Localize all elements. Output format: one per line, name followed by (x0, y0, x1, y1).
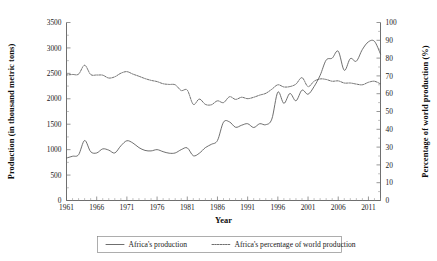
y-axis-tick-label: 1000 (47, 145, 62, 154)
y2-axis-title: Percentage of world production (%) (421, 45, 430, 178)
chart-figure: 0500100015002000250030003500010203040506… (0, 0, 437, 261)
x-axis-tick-label: 1971 (119, 203, 134, 212)
y2-axis-tick-label: 60 (386, 89, 394, 98)
y2-axis-tick-label: 40 (386, 125, 394, 134)
x-axis-tick-label: 2001 (301, 203, 316, 212)
y-axis-title: Production (in thousand metric tons) (7, 44, 16, 180)
x-axis-title: Year (215, 216, 232, 225)
legend-item-percentage: Africa's percentage of world production (235, 240, 356, 249)
y-axis-tick-label: 2500 (47, 69, 62, 78)
y2-axis-tick-label: 10 (386, 178, 394, 187)
y-axis-tick-label: 1500 (47, 120, 62, 129)
y2-axis-tick-label: 0 (386, 196, 390, 205)
y-axis-tick-label: 3000 (47, 44, 62, 53)
x-axis-tick-label: 1976 (150, 203, 165, 212)
x-axis-tick-label: 1986 (210, 203, 225, 212)
y2-axis-tick-label: 30 (386, 143, 394, 152)
y-axis-tick-label: 3500 (47, 18, 62, 27)
x-axis-tick-label: 2011 (361, 203, 376, 212)
x-axis-tick-label: 1981 (180, 203, 195, 212)
y2-axis-tick-label: 90 (386, 36, 394, 45)
y2-axis-tick-label: 80 (386, 54, 394, 63)
y2-axis-tick-label: 50 (386, 107, 394, 116)
y2-axis-tick-label: 20 (386, 161, 394, 170)
x-axis-tick-label: 2006 (331, 203, 346, 212)
x-axis-tick-label: 1991 (240, 203, 255, 212)
y-axis-tick-label: 500 (50, 171, 61, 180)
y2-axis-tick-label: 70 (386, 72, 394, 81)
y-axis-tick-label: 2000 (47, 94, 62, 103)
y2-axis-tick-label: 100 (386, 18, 397, 27)
x-axis-tick-label: 1996 (270, 203, 285, 212)
x-axis-tick-label: 1966 (89, 203, 104, 212)
legend-item-production: Africa's production (129, 240, 188, 249)
x-axis-tick-label: 1961 (59, 203, 74, 212)
dual-axis-line-chart: 0500100015002000250030003500010203040506… (0, 0, 437, 261)
